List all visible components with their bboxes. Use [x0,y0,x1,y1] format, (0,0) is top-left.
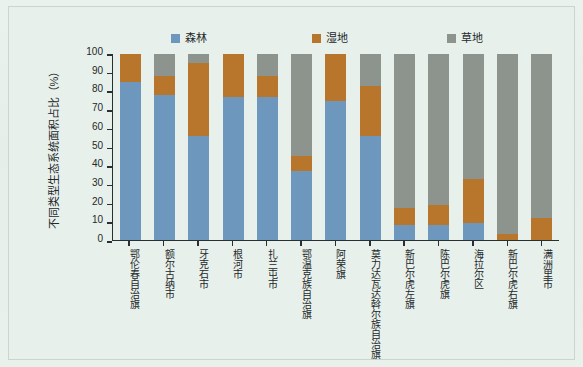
x-axis-tick-mark [335,241,337,246]
bar-segment-forest [120,82,141,240]
bar-segment-grass [531,54,552,218]
y-axis-tick-label: 0 [97,234,103,244]
bar-segment-forest [188,136,209,240]
y-axis-tick-label: 90 [92,66,103,76]
bar-segment-grass [394,54,415,208]
bar-segment-wetland [223,54,244,97]
stacked-bar [291,54,312,240]
bar-segment-forest [325,101,346,241]
x-axis-tick-mark [369,241,371,246]
stacked-bar [428,54,449,240]
x-axis-tick-mark [266,241,268,246]
y-axis-tick-label: 10 [92,215,103,225]
stacked-bar [120,54,141,240]
legend-swatch-grassland [447,34,456,43]
bar-segment-wetland [428,205,449,225]
y-axis-title: 不同类型生态系统面积占比（%） [45,54,63,241]
x-axis-ticks [112,241,559,247]
bar-segment-wetland [394,208,415,225]
legend-swatch-wetland [312,34,321,43]
stacked-bar [531,54,552,240]
bar-segment-wetland [360,86,381,136]
bar-segment-wetland [497,234,518,240]
legend-item-forest: 森林 [171,33,207,44]
bar-segment-forest [463,223,484,240]
x-axis-labels: 鄂伦春自治旗额尔古纳市牙克石市根河市扎兰屯市鄂温克族自治旗阿荣旗莫力达瓦达斡尔族… [112,249,559,359]
bar-segment-grass [497,54,518,234]
bar-segment-forest [291,171,312,240]
x-axis-tick-mark [541,241,543,246]
x-axis-tick-mark [232,241,234,246]
y-axis-tick: 0 [9,241,112,242]
bar-segment-forest [428,225,449,240]
bar-segment-grass [257,54,278,76]
x-axis-tick [359,241,380,247]
bar-segment-wetland [325,54,346,101]
bar-segment-wetland [120,54,141,82]
legend-label-wetland: 湿地 [326,33,348,44]
bar-segment-wetland [188,63,209,136]
x-axis-tick [462,241,483,247]
stacked-bar [325,54,346,240]
bar-segment-forest [394,225,415,240]
x-axis-category-label: 陈巴尔虎旗 [428,249,449,299]
chart-legend: 森林 湿地 草地 [149,32,549,48]
bar-segment-grass [188,54,209,63]
bar-segment-grass [428,54,449,205]
y-axis-tick-label: 60 [92,122,103,132]
y-axis-tick-label: 40 [92,159,103,169]
x-axis-tick-mark [472,241,474,246]
x-axis-tick-mark [163,241,165,246]
x-axis-category-label: 海拉尔区 [462,249,483,289]
figure-frame: 森林 湿地 草地 1009080706050403020100 不同类型生态系统… [8,6,575,360]
x-axis-category-label: 鄂伦春自治旗 [119,249,140,309]
x-axis-category-label: 满洲里市 [531,249,552,289]
x-axis-tick-mark [438,241,440,246]
bar-group [113,54,559,240]
x-axis-category-label: 新巴尔虎右旗 [497,249,518,309]
bar-segment-grass [360,54,381,86]
y-axis-tick-label: 70 [92,103,103,113]
x-axis-tick-mark [197,241,199,246]
x-axis-category-label: 额尔古纳市 [153,249,174,299]
stacked-bar [463,54,484,240]
bar-segment-grass [154,54,175,76]
bar-segment-wetland [531,218,552,240]
x-axis-category-label: 牙克石市 [187,249,208,289]
bar-segment-forest [360,136,381,240]
x-axis-tick [325,241,346,247]
x-axis-category-label: 新巴尔虎左旗 [394,249,415,309]
x-axis-tick-mark [403,241,405,246]
bar-segment-grass [463,54,484,179]
page-background: 森林 湿地 草地 1009080706050403020100 不同类型生态系统… [0,0,583,367]
bar-segment-wetland [257,76,278,96]
x-axis-tick [497,241,518,247]
bar-segment-forest [154,95,175,240]
y-axis-tick-label: 80 [92,84,103,94]
x-axis-tick [119,241,140,247]
x-axis-tick [394,241,415,247]
stacked-bar [394,54,415,240]
y-axis-tick-label: 50 [92,141,103,151]
y-axis-tick-label: 100 [86,47,103,57]
x-axis-tick [187,241,208,247]
x-axis-tick [531,241,552,247]
x-axis-tick [428,241,449,247]
x-axis-tick [291,241,312,247]
x-axis-tick-mark [300,241,302,246]
legend-item-grassland: 草地 [447,33,483,44]
bar-segment-forest [257,97,278,240]
x-axis-tick-mark [128,241,130,246]
x-axis-tick-mark [507,241,509,246]
x-axis-category-label: 阿荣旗 [325,249,346,279]
bar-segment-wetland [463,179,484,224]
y-axis-tick-label: 20 [92,197,103,207]
x-axis-category-label: 鄂温克族自治旗 [291,249,312,319]
stacked-bar [257,54,278,240]
x-axis-tick [153,241,174,247]
x-axis-category-label: 莫力达瓦达斡尔族自治旗 [359,249,380,359]
plot-area [112,54,559,241]
bar-segment-forest [223,97,244,240]
stacked-bar [188,54,209,240]
stacked-bar [497,54,518,240]
